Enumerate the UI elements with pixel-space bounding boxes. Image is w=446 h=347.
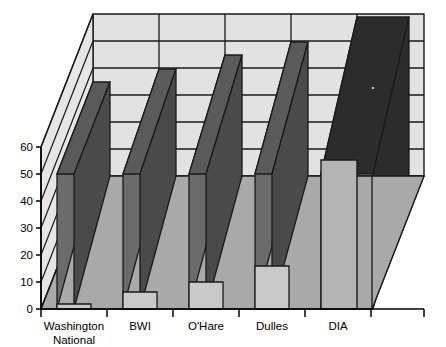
category-label-bwi: BWI [129, 320, 151, 332]
value-tick-label: 0 [27, 303, 33, 315]
value-axis-tick-labels: 60 50 40 30 20 10 0 [20, 141, 33, 315]
category-axis-ticks [41, 309, 424, 317]
category-label-ohare: O'Hare [188, 320, 224, 332]
value-tick-label: 60 [20, 141, 33, 153]
value-tick-label: 20 [20, 249, 33, 261]
speckle-artifact [372, 87, 374, 89]
category-axis-labels: Washington National BWI O'Hare Dulles DI… [44, 320, 348, 346]
value-tick-label: 50 [20, 168, 33, 180]
floor-right-wedge [372, 176, 424, 309]
category-label-washington-national-line2: National [53, 334, 95, 346]
bar-front-face [255, 266, 289, 309]
bar-front-face [123, 292, 157, 309]
category-label-washington-national-line1: Washington [44, 320, 104, 332]
bar-front-face [189, 282, 223, 309]
value-tick-label: 30 [20, 222, 33, 234]
value-tick-label: 10 [20, 276, 33, 288]
bar-chart-3d: 60 50 40 30 20 10 0 Washington National … [0, 0, 446, 347]
chart-container: 60 50 40 30 20 10 0 Washington National … [0, 0, 446, 347]
floor-front-edge [372, 176, 424, 309]
bar-front-face [321, 160, 357, 309]
value-tick-label: 40 [20, 195, 33, 207]
category-label-dulles: Dulles [256, 320, 288, 332]
category-label-dia: DIA [328, 320, 348, 332]
